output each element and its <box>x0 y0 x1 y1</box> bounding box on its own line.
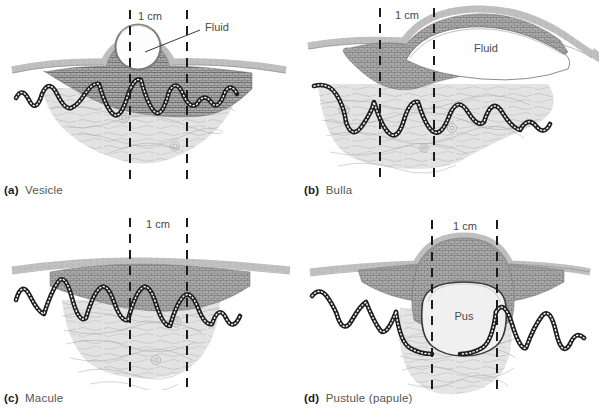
panel-bulla: 1 cm Fluid (b) Bulla <box>300 0 599 208</box>
panel-vesicle: 1 cm Fluid (a) Vesicle <box>0 0 299 208</box>
panel-pustule: 1 cm Pus (d) Pustule (papule) <box>300 208 599 416</box>
panel-letter-a: (a) <box>4 184 19 196</box>
scale-label-b: 1 cm <box>395 9 419 21</box>
panel-name-c: Macule <box>25 392 63 404</box>
pus-label-d: Pus <box>455 310 474 322</box>
scale-label-d: 1 cm <box>453 220 477 232</box>
panel-name-b: Bulla <box>326 184 353 196</box>
scale-label-c: 1 cm <box>146 218 170 230</box>
caption-panel-d: (d) Pustule (papule) <box>304 392 413 404</box>
panel-letter-b: (b) <box>304 184 319 196</box>
fluid-label-a: Fluid <box>205 21 229 33</box>
fluid-label-b: Fluid <box>474 42 498 54</box>
panel-macule: 1 cm (c) Macule <box>0 208 299 416</box>
caption-panel-a: (a) Vesicle <box>4 184 63 196</box>
vesicle-cavity <box>116 25 160 69</box>
panel-name-d: Pustule (papule) <box>326 392 413 404</box>
scale-label-a: 1 cm <box>138 10 162 22</box>
panel-letter-d: (d) <box>304 392 319 404</box>
panel-name-a: Vesicle <box>25 184 63 196</box>
caption-panel-b: (b) Bulla <box>304 184 352 196</box>
caption-panel-c: (c) Macule <box>4 392 63 404</box>
panel-letter-c: (c) <box>4 392 19 404</box>
skin-lesion-figure: 1 cm Fluid (a) Vesicle <box>0 0 599 416</box>
